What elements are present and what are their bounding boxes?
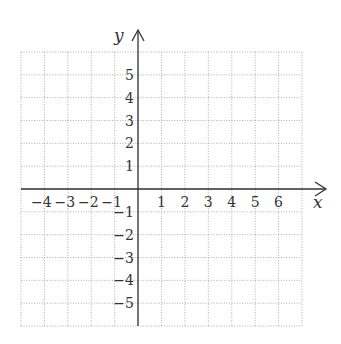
x-tick-label: −3 bbox=[55, 194, 76, 210]
y-tick-label: 4 bbox=[125, 90, 134, 106]
coordinate-plane: −4−3−2−112345654321−1−2−3−4−5 x y bbox=[0, 0, 341, 344]
x-tick-label: 4 bbox=[227, 194, 236, 210]
x-tick-label: −2 bbox=[78, 194, 99, 210]
y-tick-label: 5 bbox=[125, 67, 134, 83]
y-tick-label: −2 bbox=[113, 227, 134, 243]
y-tick-label: −5 bbox=[113, 295, 134, 311]
y-tick-label: 1 bbox=[125, 158, 134, 174]
x-tick-label: −4 bbox=[31, 194, 52, 210]
x-tick-label: 5 bbox=[251, 194, 260, 210]
x-axis-label: x bbox=[313, 192, 323, 212]
y-tick-label: −3 bbox=[113, 250, 134, 266]
y-tick-label: 2 bbox=[125, 135, 134, 151]
y-axis-label: y bbox=[113, 25, 124, 45]
axes bbox=[21, 30, 326, 326]
y-tick-label: 3 bbox=[125, 113, 134, 129]
y-tick-label: −1 bbox=[113, 204, 134, 220]
x-tick-label: 3 bbox=[204, 194, 213, 210]
y-tick-label: −4 bbox=[113, 272, 134, 288]
x-tick-label: 1 bbox=[157, 194, 166, 210]
x-tick-label: 6 bbox=[274, 194, 283, 210]
x-tick-label: 2 bbox=[180, 194, 189, 210]
